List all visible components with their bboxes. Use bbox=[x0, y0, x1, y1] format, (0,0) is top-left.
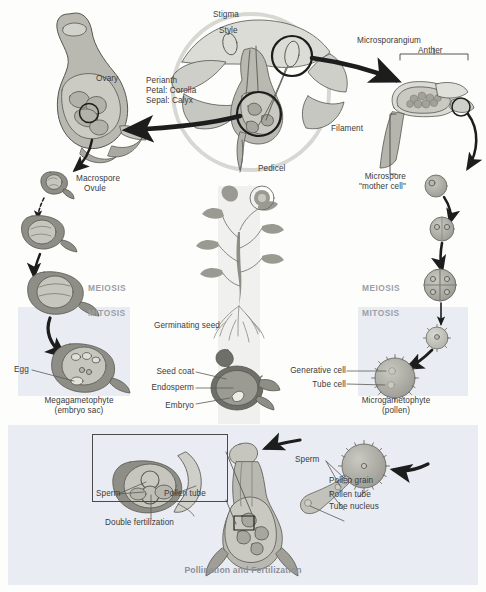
label-inset-sperm: Sperm bbox=[96, 489, 121, 499]
label-endosperm: Endosperm bbox=[116, 383, 194, 393]
label-tube-nucleus: Tube nucleus bbox=[329, 502, 379, 512]
arrow-microspore-to-pollen bbox=[408, 350, 432, 368]
label-meiosis-left: MEIOSIS bbox=[88, 283, 126, 293]
label-pedicel: Pedicel bbox=[258, 164, 285, 174]
label-sepal-calyx: Sepal: Calyx bbox=[146, 96, 193, 106]
label-germinating-seed: Germinating seed bbox=[154, 321, 220, 331]
label-perianth: Perianth bbox=[146, 76, 177, 86]
diagram-artwork bbox=[0, 0, 486, 592]
microspore-mother-cell bbox=[425, 175, 447, 197]
label-petal-corolla: Petal: Corolla bbox=[146, 86, 196, 96]
label-anther: Anther bbox=[418, 46, 443, 56]
microspore-two-cell bbox=[430, 217, 454, 241]
label-generative-cell: Generative cell bbox=[256, 366, 346, 376]
label-ovary: Ovary bbox=[96, 74, 118, 84]
label-embryo: Embryo bbox=[116, 401, 194, 411]
label-meiosis-right: MEIOSIS bbox=[362, 283, 400, 293]
label-seed-coat: Seed coat bbox=[116, 367, 194, 377]
label-macrospore: Macrospore bbox=[76, 174, 120, 184]
life-cycle-diagram: Ovary Macrospore Ovule Egg Megagametophy… bbox=[0, 0, 486, 592]
label-tube-cell: Tube cell bbox=[256, 380, 346, 390]
label-pollen-grain: Pollen grain bbox=[329, 476, 373, 486]
sporophyte-plant bbox=[196, 185, 284, 342]
label-ovule: Ovule bbox=[84, 184, 106, 194]
microgametophyte-pollen bbox=[372, 355, 419, 402]
arrow-microspore-divide-2 bbox=[441, 243, 443, 270]
label-style: Style bbox=[219, 26, 238, 36]
arrow-anther-to-microspore bbox=[468, 114, 476, 168]
label-filament: Filament bbox=[331, 124, 363, 134]
label-stigma: Stigma bbox=[213, 10, 239, 20]
label-microsporangium: Microsporangium bbox=[357, 36, 421, 46]
label-microgametophyte-line1: Microgametophyte bbox=[340, 396, 452, 406]
label-microgametophyte-line2: (pollen) bbox=[340, 406, 452, 416]
panel-caption: Pollination and Fertilization bbox=[93, 565, 393, 575]
label-egg: Egg bbox=[14, 365, 29, 375]
anther-illustration bbox=[380, 48, 474, 174]
flower-diagram bbox=[172, 14, 347, 172]
label-microspore-line1: Microspore bbox=[316, 172, 406, 182]
label-double-fertilization: Double fertilization bbox=[105, 518, 174, 528]
arrow-pollen-incoming bbox=[394, 464, 428, 471]
ovule-stage-2 bbox=[21, 216, 77, 252]
label-mitosis-right: MITOSIS bbox=[362, 308, 400, 318]
label-sperm-right: Sperm bbox=[295, 455, 320, 465]
arrow-pollen-lands bbox=[266, 440, 300, 448]
microspore-tetrad bbox=[424, 269, 456, 301]
label-inset-pollen-tube: Pollen tube bbox=[164, 489, 206, 499]
label-mitosis-left: MITOSIS bbox=[88, 308, 126, 318]
macrospore-ovule bbox=[41, 172, 74, 199]
single-microspore bbox=[423, 324, 450, 351]
label-microspore-line2: "mother cell" bbox=[316, 182, 406, 192]
arrow-macrospore-stage1 bbox=[38, 198, 44, 218]
ovary-illustration bbox=[57, 13, 146, 163]
label-pollen-tube-right: Pollen tube bbox=[329, 490, 371, 500]
